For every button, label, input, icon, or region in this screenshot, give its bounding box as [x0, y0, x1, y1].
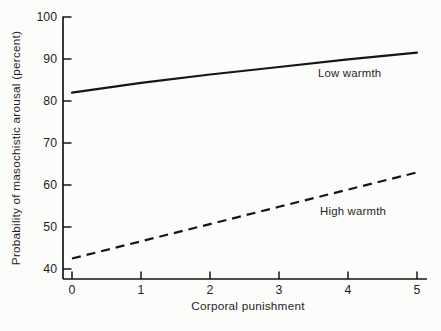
- x-axis-title: Corporal punishment: [191, 299, 305, 313]
- series-lines: [72, 53, 417, 259]
- x-tick-label: 0: [69, 283, 76, 297]
- series-labels: Low warmth High warmth: [318, 67, 386, 217]
- x-tick-label: 3: [276, 283, 283, 297]
- x-tick-labels: 0 1 2 3 4 5: [69, 283, 421, 297]
- y-tick-label: 60: [43, 178, 57, 192]
- y-axis-title: Probability of masochistic arousal (perc…: [9, 31, 23, 265]
- x-tick-label: 4: [345, 283, 352, 297]
- scanned-line-chart-figure: 100 90 80 70 60 50 40 0 1 2 3 4 5: [0, 0, 441, 331]
- x-tick-label: 1: [138, 283, 145, 297]
- y-tick-label: 80: [43, 94, 57, 108]
- y-tick-labels: 100 90 80 70 60 50 40: [36, 10, 57, 276]
- x-tick-label: 5: [414, 283, 421, 297]
- y-tick-label: 100: [36, 10, 57, 24]
- high-warmth-label: High warmth: [320, 205, 386, 217]
- y-tick-label: 90: [43, 52, 57, 66]
- chart-canvas: 100 90 80 70 60 50 40 0 1 2 3 4 5: [0, 0, 441, 331]
- y-tick-label: 40: [43, 262, 57, 276]
- low-warmth-label: Low warmth: [318, 67, 381, 79]
- axes: [63, 17, 427, 280]
- y-tick-label: 50: [43, 220, 57, 234]
- y-ticks: [63, 17, 72, 269]
- x-tick-label: 2: [207, 283, 214, 297]
- y-tick-label: 70: [43, 136, 57, 150]
- x-ticks: [72, 272, 417, 280]
